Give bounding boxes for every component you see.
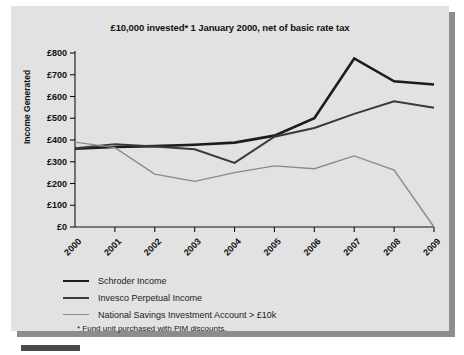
y-tick-label: £800 [47,48,67,58]
x-tick-label: 2009 [421,236,442,257]
x-tick-label: 2008 [381,236,402,257]
legend-color-swatch [63,297,89,299]
data-series-group [75,58,434,227]
series-line [75,58,434,148]
chart-legend: Schroder IncomeInvesco Perpetual IncomeN… [63,272,433,323]
y-tick-label: £300 [47,157,67,167]
y-tick-label: £200 [47,179,67,189]
y-tick-label: £0 [57,222,67,232]
chart-panel: £10,000 invested* 1 January 2000, net of… [11,6,449,331]
legend-label: Invesco Perpetual Income [98,293,202,303]
y-tick-mark-group [70,53,75,227]
x-tick-label: 2004 [222,236,243,257]
bottom-accent-bar [21,345,80,351]
series-line [75,101,434,163]
legend-item: Schroder Income [63,272,433,289]
y-tick-label: £700 [47,70,67,80]
x-tick-label: 2006 [302,236,323,257]
x-tick-label: 2003 [182,236,203,257]
y-tick-label: £500 [47,113,67,123]
legend-item: Invesco Perpetual Income [63,289,433,306]
legend-label: Schroder Income [98,276,167,286]
series-line [75,142,434,227]
x-tick-label: 2001 [102,236,123,257]
y-tick-label: £600 [47,92,67,102]
x-tick-label: 2000 [62,236,83,257]
legend-color-swatch [63,314,89,315]
y-tick-label: £100 [47,200,67,210]
y-tick-label: £400 [47,135,67,145]
chart-footnote: * Fund unit purchased with PIM discounts… [77,324,226,333]
y-tick-label-group: £0£100£200£300£400£500£600£700£800 [47,48,67,232]
x-tick-label-group: 2000200120022003200420052006200720082009 [62,236,442,257]
x-tick-mark-group [115,227,434,232]
legend-label: National Savings Investment Account > £1… [98,310,276,320]
x-tick-label: 2002 [142,236,163,257]
legend-color-swatch [63,280,89,282]
legend-item: National Savings Investment Account > £1… [63,306,433,323]
x-tick-label: 2007 [341,236,362,257]
x-tick-label: 2005 [262,236,283,257]
